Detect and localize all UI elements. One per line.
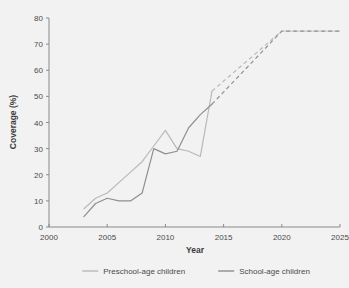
chart-legend: Preschool-age childrenSchool-age childre… — [82, 267, 310, 276]
series-path-2 — [84, 104, 212, 216]
legend-label-1[interactable]: School-age children — [239, 267, 310, 276]
y-tick-label: 30 — [34, 145, 43, 154]
y-tick-label: 20 — [34, 171, 43, 180]
x-tick-label: 2005 — [98, 233, 116, 242]
y-tick-label: 60 — [34, 66, 43, 75]
x-tick-label: 2015 — [215, 233, 233, 242]
y-tick-label: 70 — [34, 40, 43, 49]
y-tick-label: 40 — [34, 119, 43, 128]
y-tick-label: 80 — [34, 14, 43, 23]
y-tick-label: 10 — [34, 197, 43, 206]
y-tick-label: 50 — [34, 92, 43, 101]
legend-label-0[interactable]: Preschool-age children — [103, 267, 185, 276]
axes-group — [49, 18, 340, 227]
series-group — [84, 31, 340, 216]
series-path-1 — [212, 31, 340, 91]
x-tick-label: 2000 — [40, 233, 58, 242]
x-tick-label: 2010 — [157, 233, 175, 242]
chart-container: 01020304050607080 2000200520102015202020… — [0, 0, 349, 288]
coverage-line-chart: 01020304050607080 2000200520102015202020… — [0, 0, 349, 288]
x-tick-label: 2025 — [331, 233, 349, 242]
x-tick-label: 2020 — [273, 233, 291, 242]
y-axis-title: Coverage (%) — [8, 95, 18, 149]
y-axis-ticks: 01020304050607080 — [34, 14, 49, 232]
series-path-0 — [84, 91, 212, 209]
y-tick-label: 0 — [39, 223, 44, 232]
x-axis-title: Year — [186, 245, 205, 255]
series-path-3 — [212, 31, 340, 104]
